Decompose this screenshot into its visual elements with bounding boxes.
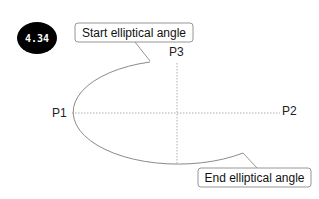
end-angle-callout: End elliptical angle bbox=[198, 153, 311, 187]
figure-number: 4.34 bbox=[25, 33, 49, 44]
figure-number-badge: 4.34 bbox=[17, 22, 57, 54]
point-label-p3: P3 bbox=[169, 45, 184, 59]
elliptical-arc bbox=[73, 62, 243, 164]
start-angle-label: Start elliptical angle bbox=[82, 26, 186, 40]
point-label-p1: P1 bbox=[52, 106, 67, 120]
elliptical-arc-diagram: 4.34 P1 P2 P3 Start elliptical angle End… bbox=[0, 0, 319, 199]
point-label-p2: P2 bbox=[282, 104, 297, 118]
end-angle-label: End elliptical angle bbox=[204, 171, 304, 185]
